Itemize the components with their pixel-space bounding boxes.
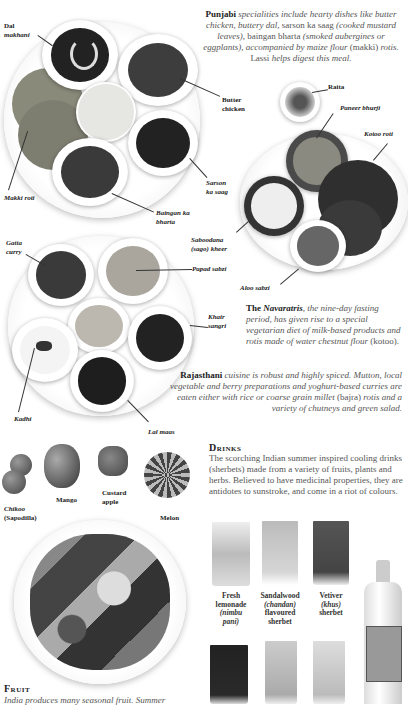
label-gatta: Gatta	[6, 239, 22, 247]
label-kadhi: Kadhi	[14, 415, 32, 423]
fruit-paragraph: India produces many seasonal fruit. Summ…	[4, 695, 204, 706]
raita-bowl	[280, 82, 320, 122]
punjabi-paragraph: Punjabi specialities include hearty dish…	[200, 9, 402, 64]
papad-sabzi-bowl	[98, 238, 168, 304]
khair-sangri-bowl	[128, 306, 192, 370]
drinks-heading: Drinks	[209, 442, 241, 453]
drink-label-vetiver: Vetiver (khus) sherbet	[306, 592, 356, 618]
label-sarson: Sarson	[206, 179, 226, 187]
label-chikoo: Chikoo	[4, 505, 25, 513]
label-sangri: sangri	[208, 322, 226, 330]
bottle-label	[366, 626, 402, 682]
label-sarson-2: ka saag	[206, 188, 228, 196]
fruit-heading: Fruit	[4, 683, 30, 694]
mango-image	[44, 444, 80, 488]
label-melon: Melon	[160, 514, 179, 522]
rajasthani-paragraph: Rajasthani cuisine is robust and highly …	[168, 370, 402, 414]
label-khair: Khair	[208, 313, 225, 321]
label-makhani: makhani	[4, 31, 30, 39]
sherbet-bottle	[364, 560, 402, 704]
kadhi-garnish	[36, 341, 52, 351]
sarson-saag-bowl	[128, 110, 198, 176]
label-butter-chicken: Butter	[222, 96, 241, 104]
label-aloo-sabzi: Aloo sabzi	[240, 284, 270, 292]
leader-line	[189, 158, 207, 178]
gatta-curry-bowl	[28, 244, 94, 306]
lal-maas-bowl	[70, 350, 134, 412]
label-sago-kheer: (sago) kheer	[191, 245, 227, 253]
light-sherbet-glass	[265, 641, 297, 704]
drinks-paragraph: The scorching Indian summer inspired coo…	[209, 453, 403, 497]
drink-label-sandalwood: Sandalwood (chandan) flavoured sherbet	[252, 592, 308, 627]
dark-sherbet-glass	[210, 645, 248, 704]
label-makki-roti: Makki roti	[4, 194, 35, 202]
label-bharta: bharta	[156, 218, 175, 226]
label-baingan: Baingan ka	[156, 209, 190, 217]
saboodana-kheer-bowl	[244, 176, 304, 236]
drink-label-lemonade: Fresh lemonade (nimbu pani)	[206, 592, 256, 627]
navaratri-paragraph: The Navaratris, the nine-day fasting per…	[246, 303, 406, 347]
label-curry: curry	[6, 248, 22, 256]
sandalwood-sherbet-glass	[262, 521, 298, 585]
label-butter-chicken-2: chicken	[222, 105, 245, 113]
label-lal-maas: Lal maas	[148, 428, 175, 436]
aloo-sabzi-bowl	[290, 220, 346, 272]
lemonade-glass	[212, 522, 250, 586]
vetiver-sherbet-glass	[313, 521, 349, 585]
label-sapodilla: (Sapodilla)	[4, 514, 37, 522]
label-custard-apple-2: apple	[102, 498, 118, 506]
custard-apple-image	[98, 446, 128, 476]
dal-cream-swirl	[70, 38, 98, 70]
label-saboodana: Saboodana	[191, 236, 223, 244]
label-dal: Dal	[4, 22, 15, 30]
chikoo-image-2	[2, 470, 26, 494]
melon-image	[144, 452, 190, 498]
label-custard-apple: Custard	[102, 489, 127, 497]
label-mango: Mango	[56, 496, 77, 504]
rice-bowl	[76, 82, 136, 142]
label-paneer-bhurji: Paneer bhurji	[340, 104, 380, 112]
label-kotoo-roti: Kotoo roti	[364, 130, 393, 138]
fruit-platter-contents	[30, 534, 170, 670]
pale-sherbet-glass	[313, 641, 345, 704]
leader-line	[280, 269, 299, 285]
label-papad-sabzi: Papad sabzi	[192, 265, 226, 273]
label-raita: Raita	[328, 83, 344, 91]
